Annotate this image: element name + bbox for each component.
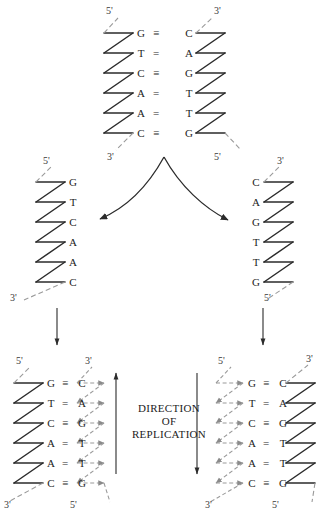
right-daughter-base-left-5: C — [246, 478, 258, 489]
left-daughter-base-right-4: T — [76, 458, 88, 469]
parental-bond-1: = — [149, 48, 163, 59]
strand-separation-arrows — [100, 157, 228, 220]
left-daughter-base-right-5: G — [76, 478, 88, 489]
right-template-bottom-prime: 5' — [264, 293, 271, 303]
left-daughter-bond-5: ≡ — [58, 478, 72, 489]
left-template-base-4: A — [67, 257, 79, 268]
right-template-backbone — [264, 166, 293, 300]
right-daughter-bond-3: = — [259, 438, 273, 449]
parental-right-3prime-tail — [196, 18, 212, 33]
right-daughter-base-left-4: A — [246, 458, 258, 469]
left-daughter-base-left-4: A — [45, 458, 57, 469]
right-daughter-bond-5: ≡ — [259, 478, 273, 489]
left-daughter-left-top-prime: 5' — [16, 356, 23, 366]
parental-duplex-backbones — [104, 18, 241, 150]
left-daughter-bond-1: = — [58, 398, 72, 409]
parental-base-left-2: C — [135, 68, 147, 79]
right-template-base-5: G — [250, 277, 262, 288]
parental-bond-5: ≡ — [149, 128, 163, 139]
parental-base-right-0: C — [183, 28, 195, 39]
right-daughter-base-left-2: C — [246, 418, 258, 429]
curved-arrow-left — [100, 157, 164, 219]
right-daughter-base-right-5: G — [277, 478, 289, 489]
right-daughter-bond-2: ≡ — [259, 418, 273, 429]
left-template-backbone — [24, 166, 65, 300]
dna-replication-figure: 5' 3' 3' 5' G ≡ C T = A C ≡ G A = T A = … — [0, 0, 329, 525]
right-daughter-base-left-0: G — [246, 378, 258, 389]
direction-line-1: DIRECTION — [121, 402, 217, 415]
direction-of-replication-label: DIRECTION OF REPLICATION — [121, 402, 217, 441]
parental-right-top-prime: 3' — [214, 6, 221, 16]
right-daughter-left-top-prime: 5' — [218, 356, 225, 366]
left-daughter-base-left-1: T — [45, 398, 57, 409]
parental-left-bottom-prime: 3' — [107, 152, 114, 162]
left-daughter-bond-4: = — [58, 458, 72, 469]
left-template-base-1: T — [67, 197, 79, 208]
left-daughter-base-left-5: C — [45, 478, 57, 489]
left-daughter-right-top-prime: 3' — [85, 356, 92, 366]
right-daughter-base-right-0: C — [277, 378, 289, 389]
right-daughter-left-bottom-prime: 3' — [205, 500, 212, 510]
parental-base-right-5: G — [183, 128, 195, 139]
left-template-top-prime: 5' — [43, 156, 50, 166]
right-template-base-4: T — [250, 257, 262, 268]
left-template-base-0: G — [67, 177, 79, 188]
parental-base-left-1: T — [135, 48, 147, 59]
parental-base-left-3: A — [135, 88, 147, 99]
right-daughter-base-left-1: T — [246, 398, 258, 409]
right-daughter-bond-4: = — [259, 458, 273, 469]
right-daughter-bond-1: = — [259, 398, 273, 409]
right-daughter-right-top-prime: 3' — [306, 354, 313, 364]
left-daughter-base-right-2: G — [76, 418, 88, 429]
parental-base-left-0: G — [135, 28, 147, 39]
left-template-base-5: C — [67, 277, 79, 288]
right-daughter-base-right-1: A — [277, 398, 289, 409]
right-template-base-2: G — [250, 217, 262, 228]
left-daughter-base-left-2: C — [45, 418, 57, 429]
parental-base-left-4: A — [135, 108, 147, 119]
left-template-base-3: A — [67, 237, 79, 248]
left-daughter-base-left-0: G — [45, 378, 57, 389]
parental-base-right-4: T — [183, 108, 195, 119]
parental-bond-0: ≡ — [149, 28, 163, 39]
right-template-top-prime: 3' — [277, 156, 284, 166]
direction-line-2: OF — [121, 415, 217, 428]
parental-base-right-2: G — [183, 68, 195, 79]
direction-line-3: REPLICATION — [121, 428, 217, 441]
left-daughter-bond-0: ≡ — [58, 378, 72, 389]
parental-left-top-prime: 5' — [106, 6, 113, 16]
parental-base-right-3: T — [183, 88, 195, 99]
left-daughter-bond-3: = — [58, 438, 72, 449]
right-daughter-base-left-3: A — [246, 438, 258, 449]
parental-bond-2: ≡ — [149, 68, 163, 79]
parental-right-bottom-prime: 5' — [214, 152, 221, 162]
parental-right-5prime-tail — [225, 133, 241, 150]
right-template-base-1: A — [250, 197, 262, 208]
left-template-base-2: C — [67, 217, 79, 228]
left-daughter-base-right-0: C — [76, 378, 88, 389]
parental-left-3prime-tail — [116, 133, 133, 150]
right-daughter-base-right-2: G — [277, 418, 289, 429]
left-daughter-base-left-3: A — [45, 438, 57, 449]
right-daughter-base-right-3: T — [277, 438, 289, 449]
curved-arrow-right — [164, 157, 228, 220]
right-daughter-right-bottom-prime: 5' — [272, 500, 279, 510]
left-daughter-base-right-1: A — [76, 398, 88, 409]
right-template-base-3: T — [250, 237, 262, 248]
parental-left-5prime-tail — [104, 18, 118, 33]
parental-base-right-1: A — [183, 48, 195, 59]
parental-bond-3: = — [149, 88, 163, 99]
parental-bond-4: = — [149, 108, 163, 119]
right-daughter-base-right-4: T — [277, 458, 289, 469]
left-template-bottom-prime: 3' — [10, 293, 17, 303]
right-template-base-0: C — [250, 177, 262, 188]
left-daughter-bond-2: ≡ — [58, 418, 72, 429]
left-daughter-left-bottom-prime: 3' — [4, 500, 11, 510]
left-daughter-right-bottom-prime: 5' — [70, 500, 77, 510]
left-daughter-base-right-3: T — [76, 438, 88, 449]
right-daughter-bond-0: ≡ — [259, 378, 273, 389]
parental-base-left-5: C — [135, 128, 147, 139]
